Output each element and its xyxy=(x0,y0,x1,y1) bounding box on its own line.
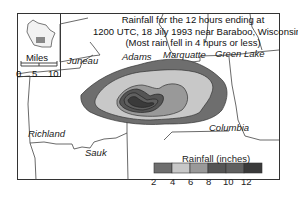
legend-tick-12: 12 xyxy=(241,176,252,187)
county-label-juneau: Juneau xyxy=(67,55,98,66)
scale-tick-0: 0 xyxy=(16,68,21,79)
legend-swatches xyxy=(154,163,262,173)
map-title: Rainfall for the 12 hours ending at 1200… xyxy=(93,14,293,49)
title-line-3: (Most rain fell in 4 hpurs or less) xyxy=(93,37,293,49)
scale-tick-5: 5 xyxy=(32,68,37,79)
title-line-1: Rainfall for the 12 hours ending at xyxy=(93,14,293,26)
county-label-sauk: Sauk xyxy=(85,147,107,158)
title-line-2: 1200 UTC, 18 Jily 1993 near Baraboo, Wis… xyxy=(93,26,293,38)
legend-tick-8: 8 xyxy=(206,176,211,187)
rainfall-contours xyxy=(81,59,227,124)
study-area-marker xyxy=(36,37,45,43)
county-label-marquette: Marquatte xyxy=(163,49,206,60)
county-label-green-lake: Green Lake xyxy=(215,48,265,59)
legend-tick-10: 10 xyxy=(223,176,234,187)
legend-tick-4: 4 xyxy=(170,176,175,187)
county-label-adams: Adams xyxy=(122,51,152,62)
county-label-columbia: Columbia xyxy=(209,122,249,133)
county-label-richland: Richland xyxy=(28,128,65,139)
scale-tick-10: 10 xyxy=(48,68,59,79)
legend-tick-2: 2 xyxy=(151,176,156,187)
legend-tick-6: 6 xyxy=(188,176,193,187)
scale-label: Miles xyxy=(14,52,60,63)
legend-title: Rainfall (inches) xyxy=(182,153,250,164)
